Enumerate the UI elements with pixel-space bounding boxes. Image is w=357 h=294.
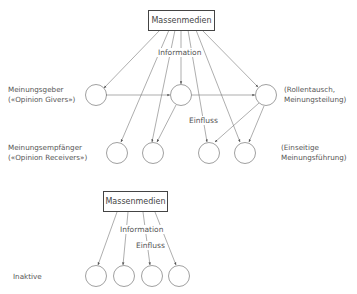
node-receiver-1	[107, 143, 128, 164]
information-label-bottom: Information	[119, 225, 164, 234]
node-receiver-2	[143, 143, 164, 164]
role-exchange-label: (Rollentausch, Meinungsteilung)	[284, 85, 346, 105]
source-box-top: Massenmedien	[148, 10, 215, 31]
source-box-top-label: Massenmedien	[151, 16, 211, 25]
influence-label-bottom: Einfluss	[135, 241, 166, 250]
source-box-bottom: Massenmedien	[103, 191, 168, 212]
node-inactive-4	[169, 266, 190, 287]
information-label-top: Information	[157, 48, 202, 57]
node-giver-3	[256, 85, 277, 106]
node-inactive-3	[142, 266, 163, 287]
source-box-bottom-label: Massenmedien	[105, 197, 165, 206]
node-giver-2	[171, 85, 192, 106]
inactive-label: Inaktive	[13, 272, 42, 282]
node-inactive-2	[114, 266, 135, 287]
node-receiver-4	[235, 143, 256, 164]
node-giver-1	[86, 85, 107, 106]
one-sided-leadership-label: (Einseitige Meinungsführung)	[281, 143, 347, 163]
influence-label-top: Einfluss	[188, 116, 219, 125]
opinion-givers-label: Meinungsgeber («Opinion Givers»)	[8, 85, 75, 105]
node-receiver-3	[199, 143, 220, 164]
opinion-receivers-label: Meinungsempfänger («Opinion Receivers»)	[8, 143, 87, 163]
node-inactive-1	[86, 266, 107, 287]
